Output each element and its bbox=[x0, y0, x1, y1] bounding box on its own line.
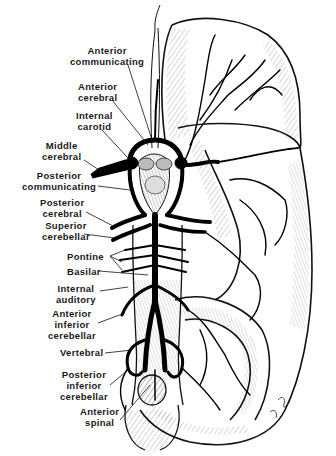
label-anterior-communicating: Anterior communicating bbox=[70, 45, 144, 67]
label-line: inferior bbox=[60, 380, 108, 391]
label-superior-cerebellar: Superior cerebellar bbox=[42, 220, 90, 242]
label-line: Posterior bbox=[40, 197, 84, 208]
label-line: communicating bbox=[22, 181, 96, 192]
label-line: Posterior bbox=[60, 369, 108, 380]
label-posterior-communicating: Posterior communicating bbox=[22, 170, 96, 192]
label-line: cerebral bbox=[42, 151, 81, 162]
label-line: cerebral bbox=[40, 208, 84, 219]
label-line: Middle bbox=[42, 140, 81, 151]
label-line: Anterior bbox=[80, 406, 119, 417]
label-line: Anterior bbox=[70, 45, 144, 56]
label-line: Basilar bbox=[67, 266, 101, 277]
label-anterior-cerebral: Anterior cerebral bbox=[78, 81, 117, 103]
label-posterior-cerebral: Posterior cerebral bbox=[40, 197, 84, 219]
label-line: Posterior bbox=[22, 170, 96, 181]
label-internal-carotid: Internal carotid bbox=[76, 110, 113, 132]
label-posterior-inferior-cerebellar: Posterior inferior cerebellar bbox=[60, 369, 108, 402]
label-line: Anterior bbox=[48, 308, 96, 319]
label-line: inferior bbox=[48, 319, 96, 330]
label-basilar: Basilar bbox=[67, 266, 101, 277]
label-line: cerebellar bbox=[42, 231, 90, 242]
label-line: Superior bbox=[42, 220, 90, 231]
label-line: auditory bbox=[56, 294, 96, 305]
label-line: cerebellar bbox=[60, 391, 108, 402]
label-line: cerebral bbox=[78, 92, 117, 103]
label-vertebral: Vertebral bbox=[60, 347, 103, 358]
artist-signature bbox=[270, 397, 290, 418]
label-line: Internal bbox=[76, 110, 113, 121]
label-middle-cerebral: Middle cerebral bbox=[42, 140, 81, 162]
label-line: carotid bbox=[76, 121, 113, 132]
chiasm-region bbox=[138, 154, 172, 215]
anatomy-figure: Anterior communicating Anterior cerebral… bbox=[0, 0, 336, 456]
label-pontine: Pontine bbox=[67, 251, 104, 262]
label-anterior-spinal: Anterior spinal bbox=[80, 406, 119, 428]
label-internal-auditory: Internal auditory bbox=[56, 283, 96, 305]
label-line: cerebellar bbox=[48, 330, 96, 341]
label-line: Internal bbox=[56, 283, 96, 294]
label-line: Vertebral bbox=[60, 347, 103, 358]
label-line: spinal bbox=[80, 417, 119, 428]
label-line: Pontine bbox=[67, 251, 104, 262]
label-anterior-inferior-cerebellar: Anterior inferior cerebellar bbox=[48, 308, 96, 341]
label-line: Anterior bbox=[78, 81, 117, 92]
label-line: communicating bbox=[70, 56, 144, 67]
